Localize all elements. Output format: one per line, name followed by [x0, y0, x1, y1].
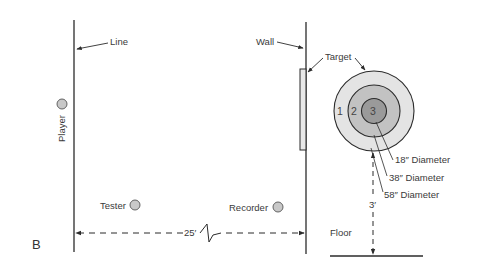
distance-dimension-label: 25′: [184, 227, 197, 238]
ring-1-number: 1: [337, 105, 343, 117]
player-marker: [57, 99, 67, 109]
ring-2-number: 2: [351, 105, 357, 117]
recorder-label: Recorder: [229, 202, 268, 213]
tester-marker: [130, 200, 140, 210]
floor-label: Floor: [330, 227, 352, 238]
panel-label: B: [32, 237, 41, 252]
line-label: Line: [110, 36, 128, 47]
target-panel-on-wall: [300, 69, 306, 150]
dimension-break-symbol: [200, 224, 221, 242]
diameter-label-38: 38″ Diameter: [389, 172, 444, 183]
diameter-label-18: 18″ Diameter: [395, 154, 450, 165]
target-label-leader-wall: [308, 58, 323, 72]
target-label-leader-rings: [355, 58, 365, 70]
height-dimension-label: 3′: [369, 199, 376, 210]
tester-label: Tester: [100, 200, 126, 211]
target-label: Target: [325, 51, 352, 62]
wall-label-leader: [277, 42, 303, 48]
ring-3-number: 3: [370, 105, 376, 117]
diameter-label-58: 58″ Diameter: [384, 189, 439, 200]
target-throw-test-diagram: Line Player Wall Target 1 2 3 18″ Diamet…: [0, 0, 478, 272]
recorder-marker: [273, 202, 283, 212]
player-label: Player: [56, 115, 67, 142]
line-label-leader: [77, 43, 108, 49]
target-face: 1 2 3: [334, 71, 414, 151]
wall-label: Wall: [256, 36, 274, 47]
